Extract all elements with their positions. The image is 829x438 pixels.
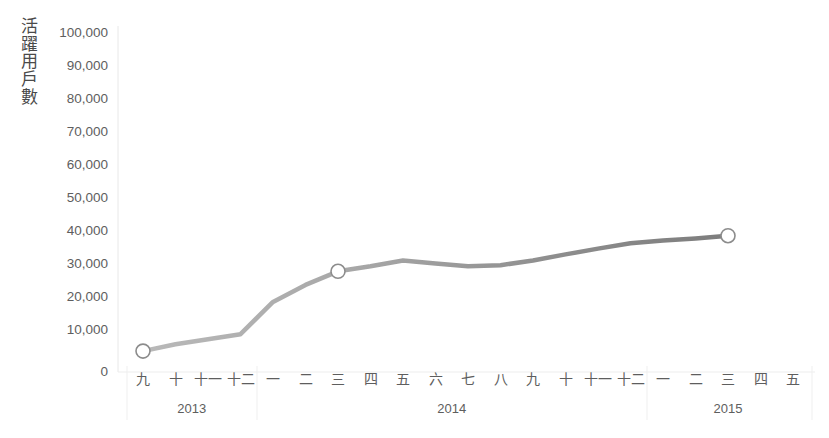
x-tick-label: 十二	[227, 368, 255, 388]
data-point-marker[interactable]	[136, 344, 150, 358]
x-group-label: 2014	[437, 401, 466, 416]
x-tick-label: 八	[494, 368, 508, 388]
x-tick-label: 一	[656, 368, 670, 388]
x-tick-label: 十	[559, 368, 573, 388]
data-point-marker[interactable]	[331, 264, 345, 278]
data-point-marker[interactable]	[721, 229, 735, 243]
x-tick-label: 十一	[584, 368, 612, 388]
x-tick-label: 二	[689, 368, 703, 388]
x-tick-label: 六	[429, 368, 443, 388]
axis-lines	[118, 26, 815, 372]
x-tick-label: 一	[266, 368, 280, 388]
x-tick-label: 二	[299, 368, 313, 388]
x-tick-label: 五	[396, 368, 410, 388]
x-tick-label: 四	[364, 368, 378, 388]
x-group-label: 2013	[177, 401, 206, 416]
x-tick-label: 十一	[194, 368, 222, 388]
x-tick-label: 三	[721, 368, 735, 388]
x-tick-label: 九	[526, 368, 540, 388]
x-tick-label: 七	[461, 368, 475, 388]
x-group-label: 2015	[714, 401, 743, 416]
plot-area	[0, 0, 829, 438]
x-tick-label: 十	[169, 368, 183, 388]
line-chart: 活躍用戶數 100,000 90,000 80,000 70,000 60,00…	[0, 0, 829, 438]
x-tick-label: 九	[136, 368, 150, 388]
x-tick-label: 五	[786, 368, 800, 388]
x-tick-label: 三	[331, 368, 345, 388]
x-tick-label: 四	[754, 368, 768, 388]
x-tick-label: 十二	[617, 368, 645, 388]
series-line	[143, 236, 728, 351]
data-series	[143, 236, 728, 351]
